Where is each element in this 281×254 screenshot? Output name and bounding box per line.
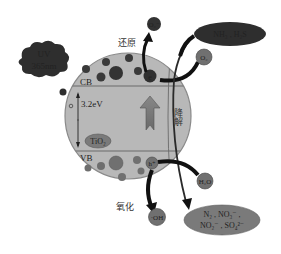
products-line-2: NO₂⁻ , SO₄²⁻ bbox=[200, 221, 244, 230]
hydroxyl-radical-product: ·OH bbox=[149, 209, 166, 226]
hole-symbol: h⁺ bbox=[148, 160, 156, 168]
wavelength-label: 365nm bbox=[31, 61, 56, 71]
water-reactant: H₂O bbox=[197, 173, 213, 189]
band-gap-label: 3.2eV bbox=[81, 99, 103, 109]
uv-light-cloud: UV 365nm bbox=[19, 41, 70, 78]
hole: h⁺ bbox=[146, 157, 158, 169]
reduction-label: 还原 bbox=[118, 37, 136, 48]
products-ellipse: N₂ , NO₃⁻ , NO₂⁻ , SO₄²⁻ bbox=[184, 205, 260, 235]
tio2-label: TiO₂ bbox=[90, 137, 106, 146]
svg-text:O₂: O₂ bbox=[200, 54, 208, 62]
products-line-1: N₂ , NO₃⁻ , bbox=[203, 210, 240, 219]
uv-label: UV bbox=[38, 49, 51, 59]
photocatalysis-diagram: e CB 3.2eV TiO₂ 降解 VB h⁺ bbox=[0, 0, 281, 254]
superoxide-product: O₂⁻ bbox=[147, 17, 161, 31]
vb-label: VB bbox=[80, 153, 93, 163]
oxygen-reactant: O₂ bbox=[196, 49, 212, 65]
cb-label: CB bbox=[80, 77, 92, 87]
pollutant-text: NH₃ , H₂S bbox=[213, 30, 246, 39]
pollutant-ellipse: NH₃ , H₂S bbox=[194, 22, 266, 46]
svg-text:·OH: ·OH bbox=[151, 214, 163, 222]
svg-text:H₂O: H₂O bbox=[199, 178, 212, 186]
oxidation-label: 氧化 bbox=[116, 201, 134, 212]
tio2-label-ellipse: TiO₂ bbox=[85, 134, 111, 148]
svg-text:O₂⁻: O₂⁻ bbox=[148, 21, 159, 29]
electron-symbol: e bbox=[148, 73, 152, 82]
